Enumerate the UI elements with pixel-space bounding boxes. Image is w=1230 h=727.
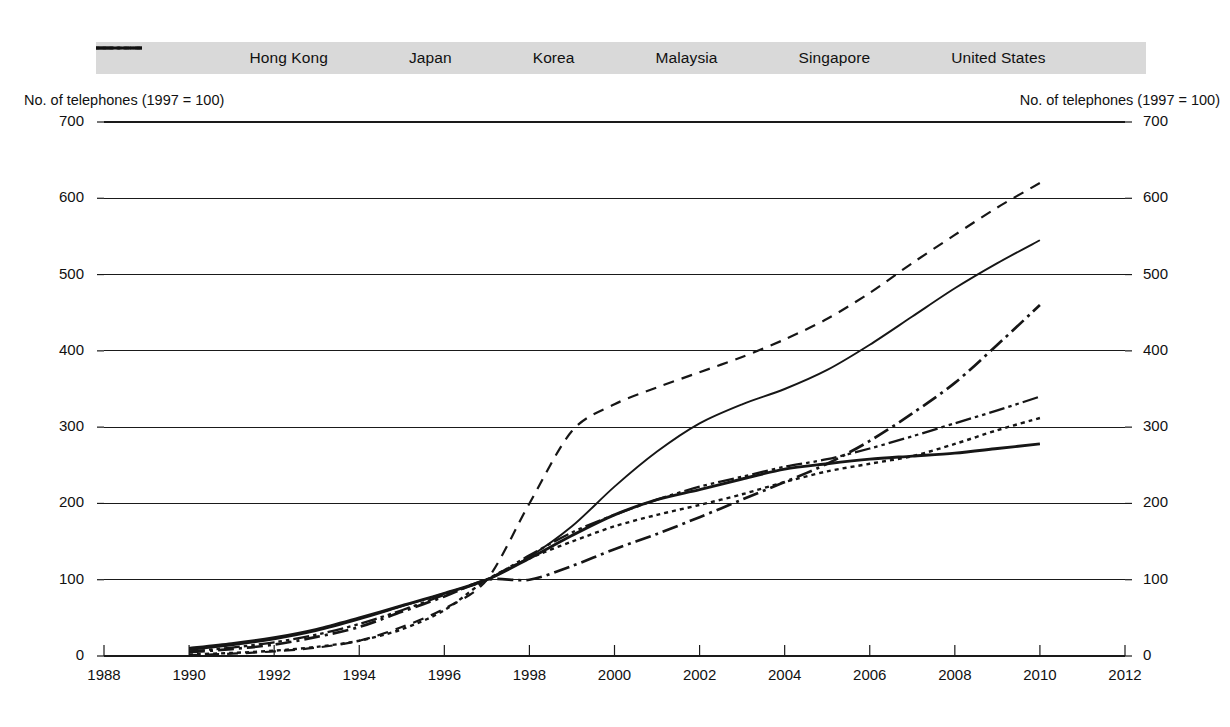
plot-area <box>0 0 1230 727</box>
x-tick-label: 1996 <box>414 666 474 683</box>
y-tick-label-left: 100 <box>38 570 84 587</box>
y-tick-label-left: 700 <box>38 112 84 129</box>
y-tick-label-right: 400 <box>1143 341 1189 358</box>
x-tick-label: 2010 <box>1010 666 1070 683</box>
x-tick-label: 2008 <box>925 666 985 683</box>
y-tick-label-left: 500 <box>38 265 84 282</box>
x-tick-label: 2012 <box>1095 666 1155 683</box>
x-tick-label: 2006 <box>840 666 900 683</box>
data-series-curves <box>189 183 1040 655</box>
y-tick-label-right: 100 <box>1143 570 1189 587</box>
y-axis-tick-marks <box>97 122 1132 656</box>
y-tick-label-right: 500 <box>1143 265 1189 282</box>
y-tick-label-left: 0 <box>38 646 84 663</box>
x-tick-label: 2000 <box>585 666 645 683</box>
y-tick-label-left: 200 <box>38 493 84 510</box>
telephone-index-line-chart: Hong Kong Japan Korea Malaysia Singapore <box>0 0 1230 727</box>
y-tick-label-right: 600 <box>1143 188 1189 205</box>
x-tick-label: 2002 <box>670 666 730 683</box>
x-tick-label: 1992 <box>244 666 304 683</box>
y-tick-label-right: 0 <box>1143 646 1189 663</box>
x-tick-label: 1994 <box>329 666 389 683</box>
x-tick-label: 2004 <box>755 666 815 683</box>
series-line-singapore <box>189 397 1040 652</box>
y-tick-label-right: 200 <box>1143 493 1189 510</box>
series-line-japan <box>189 418 1040 654</box>
x-tick-label: 1990 <box>159 666 219 683</box>
x-tick-label: 1998 <box>499 666 559 683</box>
y-tick-label-left: 600 <box>38 188 84 205</box>
y-tick-label-left: 300 <box>38 417 84 434</box>
series-line-malaysia <box>189 305 1040 652</box>
gridlines <box>104 122 1125 656</box>
series-line-hong-kong <box>189 240 1040 650</box>
series-line-united-states <box>189 444 1040 648</box>
y-tick-label-right: 300 <box>1143 417 1189 434</box>
series-line-korea <box>189 183 1040 655</box>
y-tick-label-left: 400 <box>38 341 84 358</box>
y-tick-label-right: 700 <box>1143 112 1189 129</box>
x-tick-label: 1988 <box>74 666 134 683</box>
